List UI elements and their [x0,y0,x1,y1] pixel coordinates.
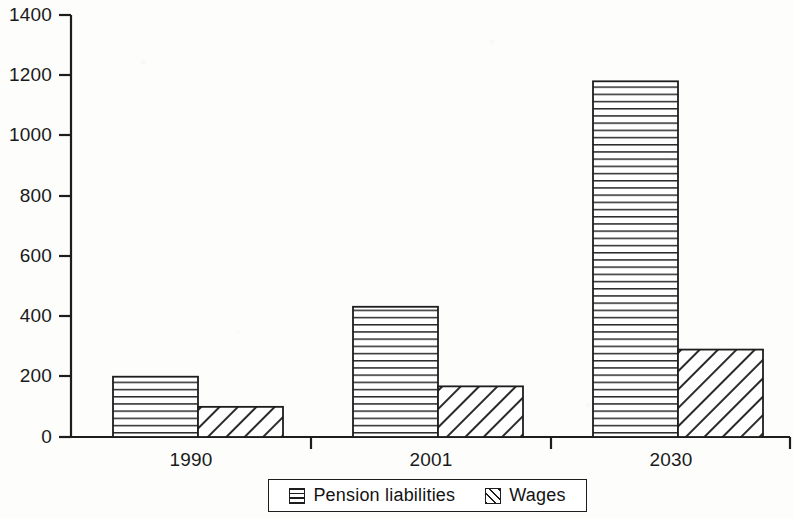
y-tick-label-400: 400 [0,305,52,327]
legend-swatch-diagonal-hatch-icon [485,488,501,504]
bar-chart: 1400 1200 1000 800 600 400 200 0 1990 20… [0,0,794,519]
legend-swatch-horizontal-lines-icon [289,488,305,504]
bars-group-1990 [113,377,283,437]
y-tick-label-0: 0 [0,426,52,448]
y-tick-label-1000: 1000 [0,124,52,146]
y-tick-label-600: 600 [0,245,52,267]
legend-entry-pension-liabilities: Pension liabilities [289,485,455,506]
bar-pension-2001 [353,307,438,437]
y-tick-label-1400: 1400 [0,4,52,26]
y-axis-ticks [59,15,71,437]
x-tick-label-2030: 2030 [611,449,731,471]
bar-pension-2030 [593,81,678,437]
bar-pension-1990 [113,377,198,437]
y-tick-label-1200: 1200 [0,64,52,86]
y-axis [59,15,71,437]
bar-wages-2001 [438,386,523,437]
legend-label-pension-liabilities: Pension liabilities [313,485,455,506]
y-tick-label-200: 200 [0,365,52,387]
legend-entry-wages: Wages [485,485,565,506]
x-tick-label-2001: 2001 [371,449,491,471]
chart-legend: Pension liabilities Wages [268,479,587,512]
bars-group-2030 [593,81,763,437]
y-tick-label-800: 800 [0,185,52,207]
bars-group-2001 [353,307,523,437]
legend-label-wages: Wages [509,485,565,506]
x-tick-label-1990: 1990 [131,449,251,471]
bar-wages-2030 [678,350,763,437]
bar-wages-1990 [198,407,283,437]
x-axis [71,437,790,449]
chart-canvas [0,0,794,519]
x-axis-category-ticks [311,437,790,449]
